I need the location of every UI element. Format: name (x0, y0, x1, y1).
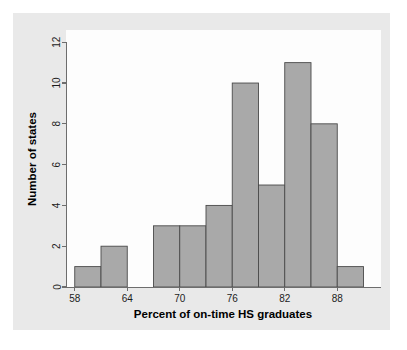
y-tick-label: 0 (52, 284, 63, 290)
x-tick-label: 88 (332, 293, 344, 304)
x-tick-label: 70 (174, 293, 186, 304)
y-tick-label: 8 (52, 121, 63, 127)
y-tick-label: 4 (52, 202, 63, 208)
x-tick-label: 58 (69, 293, 81, 304)
histogram-bar (75, 267, 101, 287)
x-tick-group: 586470768288 (69, 287, 343, 304)
histogram-bar (232, 83, 258, 287)
x-tick-label: 64 (122, 293, 134, 304)
bars-group (75, 63, 364, 287)
y-tick-label: 12 (52, 36, 63, 48)
histogram-bar (311, 124, 337, 287)
histogram-figure: 586470768288 024681012 Percent of on-tim… (0, 0, 407, 350)
y-tick-label: 6 (52, 161, 63, 167)
histogram-bar (180, 226, 206, 287)
y-tick-label: 10 (52, 77, 63, 89)
histogram-bar (337, 267, 363, 287)
y-axis-title: Number of states (26, 112, 38, 206)
x-tick-label: 82 (279, 293, 291, 304)
x-axis-title: Percent of on-time HS graduates (134, 308, 312, 320)
histogram-bar (259, 185, 285, 287)
histogram-bar (101, 246, 127, 287)
histogram-bar (206, 205, 232, 287)
y-tick-group: 024681012 (52, 36, 67, 290)
histogram-bar (285, 63, 311, 287)
y-tick-label: 2 (52, 243, 63, 249)
x-tick-label: 76 (227, 293, 239, 304)
plot-canvas: 586470768288 024681012 Percent of on-tim… (0, 0, 407, 350)
histogram-bar (154, 226, 180, 287)
